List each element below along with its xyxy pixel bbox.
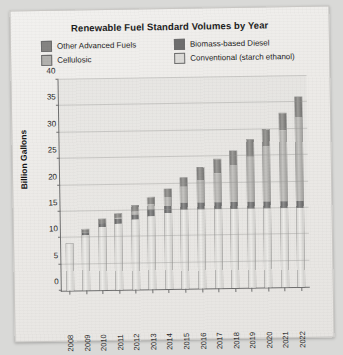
bar-segment (148, 216, 156, 289)
y-axis-tick-mark (55, 105, 59, 106)
x-tick-holder: 2014 (161, 289, 178, 323)
y-axis-tick-label: 10 (40, 225, 58, 234)
x-axis-tick-label: 2022 (298, 331, 307, 348)
x-tick-holder: 2010 (95, 290, 112, 324)
bar-segment (115, 223, 123, 290)
bar-segment (214, 209, 222, 288)
y-axis-tick-label: 15 (39, 198, 57, 207)
y-axis-tick-label: 5 (40, 251, 58, 260)
x-axis-tick-label: 2012 (132, 334, 141, 351)
x-tick-holder: 2019 (244, 288, 261, 322)
stacked-bar[interactable] (279, 113, 289, 287)
y-axis-tick-mark (57, 211, 61, 212)
stacked-bar[interactable] (115, 213, 123, 290)
x-axis-tick-label: 2009 (83, 334, 92, 351)
stacked-bar[interactable] (82, 229, 90, 290)
bar-segment (213, 159, 220, 173)
x-axis-tick-label: 2014 (165, 333, 174, 350)
y-axis-tick-mark (58, 263, 62, 264)
x-axis-tick-label: 2008 (66, 335, 75, 352)
x-tick-holder: 2018 (227, 288, 244, 322)
bar-segment (231, 209, 239, 288)
x-axis-tick-label: 2021 (281, 331, 290, 348)
y-axis-tick-mark (56, 132, 60, 133)
x-tick-holder: 2016 (194, 288, 211, 322)
stacked-bar[interactable] (295, 97, 305, 287)
bar-segment (230, 165, 238, 202)
x-axis-tick-mark (119, 290, 120, 294)
x-axis-tick-mark (103, 290, 104, 294)
x-axis-tick-mark (70, 291, 71, 295)
plot-axes: 2008200920102011201220132014201520162017… (58, 76, 310, 292)
bar-segment (295, 97, 302, 117)
y-axis-tick-label: 0 (41, 277, 59, 286)
y-axis-tick-mark (57, 237, 61, 238)
x-axis-tick-label: 2020 (265, 332, 274, 349)
stacked-bar[interactable] (181, 178, 190, 289)
x-tick-holder: 2017 (211, 288, 228, 322)
x-axis-tick-label: 2013 (149, 333, 158, 350)
y-axis-tick-label: 30 (38, 119, 56, 128)
x-axis-tick-mark (152, 289, 153, 293)
y-axis-tick-label: 40 (37, 66, 55, 75)
stacked-bar[interactable] (213, 159, 222, 288)
x-axis-tick-mark (202, 289, 203, 293)
bar-segment (297, 208, 305, 287)
bar-segment (262, 129, 269, 146)
bar-segment (66, 243, 74, 291)
x-axis-tick-mark (169, 289, 170, 293)
stacked-bar[interactable] (148, 197, 156, 289)
x-tick-holder: 2013 (144, 289, 161, 323)
x-axis-tick-label: 2019 (248, 332, 257, 349)
x-tick-holder: 2009 (78, 290, 95, 324)
x-axis-tick-label: 2017 (215, 332, 224, 349)
x-axis-tick-mark (251, 288, 252, 292)
stacked-bar[interactable] (197, 167, 206, 288)
x-tick-holder: 2020 (260, 287, 277, 321)
x-axis-tick-mark (185, 289, 186, 293)
x-axis-tick-mark (86, 290, 87, 294)
bar-segment (181, 187, 188, 203)
x-axis-tick-mark (136, 290, 137, 294)
y-axis-tick-label: 20 (39, 172, 57, 181)
stacked-bar[interactable] (66, 243, 74, 291)
bar-segment (148, 197, 155, 205)
bar-segment (295, 117, 303, 201)
y-axis-tick-mark (55, 79, 59, 80)
bar-segment (279, 130, 287, 201)
bar-segment (164, 189, 171, 197)
x-tick-holder: 2008 (62, 290, 79, 324)
bar-segment (214, 173, 221, 202)
stacked-bar[interactable] (131, 205, 139, 289)
chart-paper-panel: Renewable Fuel Standard Volumes by Year … (9, 6, 334, 343)
x-axis-tick-mark (268, 287, 269, 291)
plot-area-wrapper: Billion Gallons 200820092010201120122013… (10, 7, 333, 342)
bar-segment (165, 213, 173, 289)
y-axis-label: Billion Gallons (18, 130, 29, 190)
x-tick-holder: 2012 (128, 289, 145, 323)
screenshot-root: Renewable Fuel Standard Volumes by Year … (0, 0, 343, 355)
stacked-bar[interactable] (230, 151, 239, 288)
bar-segment (164, 197, 171, 206)
bar-segment (264, 208, 272, 287)
x-tick-holder: 2011 (111, 290, 128, 324)
x-axis-tick-mark (284, 287, 285, 291)
stacked-bar[interactable] (99, 219, 107, 290)
x-tick-holder: 2021 (277, 287, 294, 321)
bar-segment (247, 209, 255, 288)
x-axis-tick-label: 2015 (182, 333, 191, 350)
stacked-bar[interactable] (246, 140, 255, 288)
x-axis-tick-mark (235, 288, 236, 292)
stacked-bar[interactable] (164, 189, 173, 289)
y-axis-tick-mark (56, 158, 60, 159)
x-axis-tick-mark (218, 288, 219, 292)
bar-segment (132, 220, 140, 290)
bar-segment (197, 180, 204, 203)
x-axis-tick-label: 2011 (116, 334, 125, 350)
bar-segment (280, 208, 288, 287)
y-axis-tick-label: 35 (38, 93, 56, 102)
bar-segment (197, 167, 204, 180)
x-axis-tick-mark (301, 287, 302, 291)
y-axis-tick-label: 25 (39, 145, 57, 154)
x-axis-tick-label: 2010 (99, 334, 108, 351)
